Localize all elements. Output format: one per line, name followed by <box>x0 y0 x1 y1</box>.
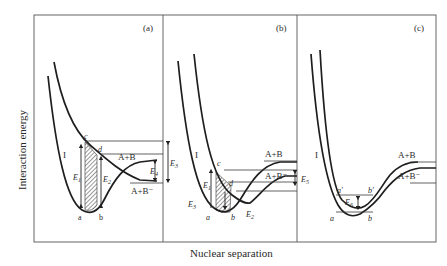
point-b-b: b <box>231 213 235 222</box>
curve-I-label-a: I <box>63 150 66 160</box>
point-b-c: b <box>368 214 372 223</box>
energy-E6-c: E6 <box>344 198 353 208</box>
asymptote-lower-b: A+B⁻ <box>265 171 288 181</box>
panel-a-tag: (a) <box>143 23 153 33</box>
panel-c: (c) I a′ b′ a b E6 A+B A+B⁻ <box>311 23 436 223</box>
energy-E1-b: E1 <box>202 181 211 191</box>
point-a-c: a <box>330 214 334 223</box>
point-a-b: a <box>206 213 210 222</box>
energy-E2-a: E2 <box>102 175 111 185</box>
curve-I-label-c: I <box>315 150 318 160</box>
curve-ion-a <box>54 62 157 181</box>
energy-E1-a: E1 <box>72 173 81 183</box>
point-c-b: c <box>217 159 221 168</box>
panel-a: (a) I c d a b E1 E2 E4 E3 A+B A+B⁻ <box>48 23 178 222</box>
curve-I-label-b: I <box>195 150 198 160</box>
hatched-region-a <box>85 142 97 210</box>
panel-b: (b) I c d a b E1 E2 E3 E5 A+B A+B⁻ <box>178 23 309 222</box>
point-b-prime-c: b′ <box>368 186 374 195</box>
potential-energy-diagram: Interaction energy Nuclear separation (a… <box>0 0 447 266</box>
curve-I-b <box>178 61 297 212</box>
point-d-a: d <box>98 145 103 154</box>
point-b-a: b <box>99 213 103 222</box>
asymptote-lower-a: A+B⁻ <box>131 186 154 196</box>
x-axis-label: Nuclear separation <box>190 247 273 259</box>
energy-E2-b: E2 <box>245 210 254 220</box>
y-axis-label: Interaction energy <box>16 109 28 190</box>
energy-E5-b: E5 <box>300 175 309 185</box>
asymptote-lower-c: A+B⁻ <box>398 171 421 181</box>
energy-E3-b: E3 <box>187 200 196 210</box>
point-a-a: a <box>78 213 82 222</box>
asymptote-upper-c: A+B <box>398 150 416 160</box>
point-a-prime-c: a′ <box>337 186 343 195</box>
panel-c-tag: (c) <box>414 23 424 33</box>
asymptote-upper-b: A+B <box>265 149 283 159</box>
energy-E3-a: E3 <box>169 159 178 169</box>
curve-ion-c <box>320 50 418 208</box>
asymptote-upper-a: A+B <box>118 152 136 162</box>
point-d-b: d <box>229 179 234 188</box>
panel-b-tag: (b) <box>276 23 287 33</box>
point-c-a: c <box>84 132 88 141</box>
energy-E4-a: E4 <box>149 167 158 177</box>
